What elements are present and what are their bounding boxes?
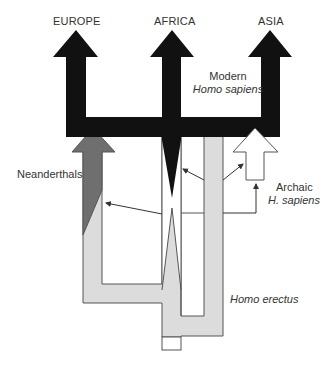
label-neanderthals: Neanderthals bbox=[17, 168, 82, 181]
arrow-to-archaic bbox=[223, 164, 243, 180]
region-label-africa: AFRICA bbox=[154, 15, 196, 28]
label-modern-line2: Homo sapiens bbox=[186, 83, 270, 96]
label-archaic: Archaic H. sapiens bbox=[268, 181, 328, 207]
region-label-europe: EUROPE bbox=[53, 15, 101, 28]
region-label-asia: ASIA bbox=[258, 15, 284, 28]
label-modern: Modern Homo sapiens bbox=[186, 70, 270, 96]
label-archaic-line1: Archaic bbox=[268, 181, 328, 194]
homo-erectus-network bbox=[83, 132, 223, 350]
arrow-to-neanderthals bbox=[106, 203, 162, 214]
arrow-up-to-archaic bbox=[223, 184, 256, 213]
label-homo-erectus: Homo erectus bbox=[230, 293, 298, 306]
arrow-to-africa bbox=[183, 169, 204, 180]
label-archaic-line2: H. sapiens bbox=[268, 194, 328, 207]
label-modern-line1: Modern bbox=[186, 70, 270, 83]
